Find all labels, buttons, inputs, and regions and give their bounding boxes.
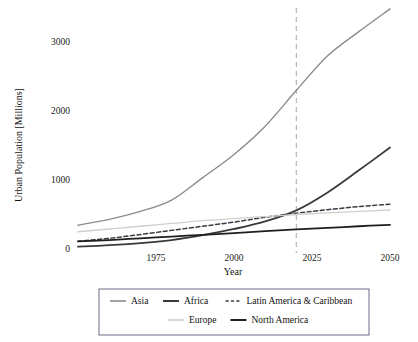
y-tick-1000: 1000 — [51, 175, 70, 185]
y-tick-2000: 2000 — [51, 106, 70, 116]
y-tick-3000: 3000 — [51, 37, 70, 47]
chart-figure: 0100020003000 1975200020252050 Urban Pop… — [0, 0, 418, 342]
x-tick-2050: 2050 — [381, 253, 400, 263]
x-axis-title: Year — [224, 266, 243, 277]
urban-population-line-chart: 0100020003000 1975200020252050 Urban Pop… — [0, 0, 418, 342]
legend-label-north-america: North America — [252, 315, 310, 325]
legend-label-latin-america-caribbean: Latin America & Caribbean — [247, 296, 353, 306]
x-tick-2000: 2000 — [225, 253, 244, 263]
chart-legend[interactable]: AsiaAfricaLatin America & CaribbeanEurop… — [99, 289, 369, 335]
legend-label-asia: Asia — [131, 296, 149, 306]
y-axis-title: Urban Population [Millions] — [13, 88, 24, 202]
x-tick-1975: 1975 — [147, 253, 166, 263]
x-tick-2025: 2025 — [303, 253, 322, 263]
legend-label-europe: Europe — [189, 315, 216, 325]
legend-label-africa: Africa — [184, 296, 209, 306]
y-tick-0: 0 — [65, 244, 70, 254]
